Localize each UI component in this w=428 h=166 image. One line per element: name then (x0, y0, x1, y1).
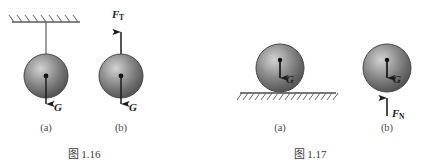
normal-force-subscript-N: N (399, 112, 405, 121)
figure-caption-1-16: 图 1.16 (68, 148, 102, 160)
tension-force-subscript-T: T (119, 13, 124, 22)
weight-force-label-G: G (286, 73, 294, 85)
physics-figures-svg: G (a) F T G (b) 图 1.16 G (0, 0, 428, 166)
diagram-canvas: G (a) F T G (b) 图 1.16 G (0, 0, 428, 166)
sublabel-b: (b) (381, 122, 394, 134)
sublabel-a: (a) (40, 122, 52, 134)
figure-caption-1-17: 图 1.17 (294, 148, 328, 160)
figure-1-17-panel-a: G (237, 44, 338, 134)
figure-1-16-panel-a: G (a) (9, 15, 80, 134)
sublabel-b: (b) (115, 122, 128, 134)
weight-force-label-G: G (54, 101, 62, 113)
ground-hatch-lines (237, 93, 338, 100)
ground-support-hatched (237, 93, 338, 100)
sublabel-a: (a) (274, 122, 286, 134)
weight-force-label-G: G (129, 101, 137, 113)
figure-1-16-panel-b: F T G (b) (99, 8, 143, 134)
ceiling-hatch-lines (9, 15, 78, 22)
ceiling-support-hatched (9, 15, 80, 22)
figure-1-17-panel-b: G F N (b) (363, 44, 411, 134)
weight-force-label-G: G (393, 73, 401, 85)
